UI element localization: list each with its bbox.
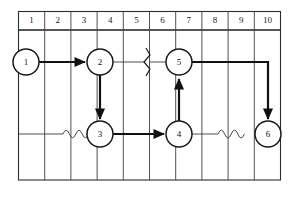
slack-wave-to-node3 — [63, 130, 89, 138]
diagram-canvas: 1 2 3 4 5 6 7 8 9 10 — [0, 0, 294, 201]
node-6-label: 6 — [266, 129, 271, 139]
node-4[interactable]: 4 — [166, 121, 192, 147]
node-4-label: 4 — [177, 129, 182, 139]
node-3-label: 3 — [98, 129, 103, 139]
diagram-edges — [19, 48, 268, 138]
column-header-1: 1 — [29, 15, 34, 25]
grid-column-separators — [45, 12, 255, 181]
edge-node5-to-node6 — [192, 62, 268, 119]
node-5[interactable]: 5 — [166, 49, 192, 75]
column-header-2: 2 — [56, 15, 61, 25]
slack-wave-to-node6 — [218, 130, 244, 138]
node-2-label: 2 — [98, 57, 103, 67]
node-1[interactable]: 1 — [13, 49, 39, 75]
node-5-label: 5 — [177, 57, 182, 67]
node-6[interactable]: 6 — [255, 121, 281, 147]
node-3[interactable]: 3 — [87, 121, 113, 147]
node-1-label: 1 — [24, 57, 29, 67]
column-header-7: 7 — [187, 15, 192, 25]
time-scale-grid: 1 2 3 4 5 6 7 8 9 10 — [19, 12, 281, 181]
network-diagram-figure: 1 2 3 4 5 6 7 8 9 10 — [0, 0, 294, 201]
diagram-nodes: 1 2 3 4 5 6 — [13, 49, 281, 147]
column-header-5: 5 — [134, 15, 139, 25]
time-scale-header-labels: 1 2 3 4 5 6 7 8 9 10 — [29, 15, 272, 25]
column-header-3: 3 — [82, 15, 87, 25]
node-2[interactable]: 2 — [87, 49, 113, 75]
column-header-6: 6 — [160, 15, 165, 25]
column-header-10: 10 — [263, 15, 273, 25]
column-header-4: 4 — [108, 15, 113, 25]
column-header-8: 8 — [213, 15, 218, 25]
column-header-9: 9 — [239, 15, 244, 25]
